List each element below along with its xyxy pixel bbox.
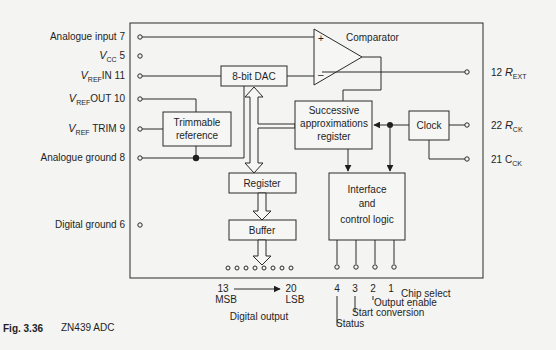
pin-label-analogue-ground: Analogue ground 8	[40, 152, 125, 163]
sar-label-3: register	[317, 131, 351, 142]
output-pin-terminal	[289, 266, 293, 270]
lsb-label: LSB	[286, 294, 305, 305]
data-bus-arrow	[245, 87, 295, 173]
msb-label: MSB	[215, 294, 237, 305]
pin-label-vref-trim: VREF TRIM 9	[68, 122, 125, 136]
pin-9-terminal	[138, 127, 142, 131]
pin-4-terminal	[335, 265, 339, 269]
register-label: Register	[243, 178, 281, 189]
pin-3-number: 3	[352, 283, 358, 294]
buffer-to-output-arrow	[253, 240, 271, 265]
output-pin-terminal	[244, 266, 248, 270]
pin-label-vref-out: VREFOUT 10	[69, 92, 126, 106]
pin-label-analogue-input: Analogue input 7	[50, 31, 126, 42]
pin-label-vref-in: VREFIN 11	[80, 69, 125, 83]
interface-label-2: and	[359, 198, 376, 209]
left-pin-labels: Analogue input 7 VCC 5 VREFIN 11 VREFOUT…	[40, 31, 125, 230]
output-pin-terminal	[271, 266, 275, 270]
pin-7-terminal	[138, 35, 142, 39]
pin-2-terminal	[373, 265, 377, 269]
figure-caption: ZN439 ADC	[61, 322, 114, 333]
register-to-buffer-arrow	[253, 193, 271, 220]
pin-4-number: 4	[334, 283, 340, 294]
pin-21-terminal	[465, 157, 469, 161]
junction-dot	[193, 155, 199, 161]
pin-label-r-ck: 22 RCK	[491, 119, 523, 133]
pin-11-terminal	[138, 74, 142, 78]
pin-10-terminal	[138, 97, 142, 101]
output-pin-terminal	[226, 266, 230, 270]
output-pin-terminal	[253, 266, 257, 270]
clock-label: Clock	[416, 120, 442, 131]
start-conversion-label: Start conversion	[352, 307, 424, 318]
lsb-pin-number: 20	[285, 283, 297, 294]
trimmable-reference-label: Trimmable	[174, 117, 221, 128]
dac-label: 8-bit DAC	[232, 71, 275, 82]
pin-1-terminal	[392, 265, 396, 269]
pin-3-terminal	[354, 265, 358, 269]
left-pin-circles	[138, 35, 142, 227]
msb-pin-number: 13	[217, 283, 229, 294]
output-pin-terminal	[280, 266, 284, 270]
pin-5-terminal	[138, 54, 142, 58]
pin-label-c-ck: 21 CCK	[491, 154, 522, 167]
comparator-plus-input: +	[318, 33, 324, 44]
sar-label-1: Successive	[309, 105, 360, 116]
digital-output-pins	[226, 266, 293, 270]
pin-2-number: 2	[370, 283, 376, 294]
wire-c-ck	[429, 140, 465, 159]
digital-output-label: Digital output	[230, 311, 289, 322]
buffer-label: Buffer	[249, 225, 276, 236]
pin-label-r-ext: 12 REXT	[491, 66, 527, 80]
output-pin-terminal	[235, 266, 239, 270]
trimmable-reference-label-2: reference	[176, 130, 219, 141]
sar-label-2: approximations	[300, 118, 368, 129]
pin-6-terminal	[138, 223, 142, 227]
status-label: Status	[336, 318, 364, 329]
pin-1-number: 1	[388, 283, 394, 294]
figure-number: Fig. 3.36	[3, 323, 43, 334]
wire-vref-out	[142, 99, 196, 112]
zn439-adc-block-diagram: Analogue input 7 VCC 5 VREFIN 11 VREFOUT…	[0, 0, 556, 350]
output-pin-terminal	[262, 266, 266, 270]
interface-label-3: control logic	[340, 214, 393, 225]
interface-label-1: Interface	[348, 184, 387, 195]
comparator-minus-input: –	[318, 69, 324, 80]
pin-8-terminal	[138, 156, 142, 160]
comparator-label: Comparator	[346, 32, 399, 43]
control-pin-wires	[335, 240, 396, 269]
pin-22-terminal	[465, 123, 469, 127]
chip-outline	[130, 23, 483, 278]
pin-12-terminal	[465, 70, 469, 74]
pin-label-vcc: VCC 5	[99, 49, 125, 63]
pin-label-digital-ground: Digital ground 6	[55, 219, 126, 230]
